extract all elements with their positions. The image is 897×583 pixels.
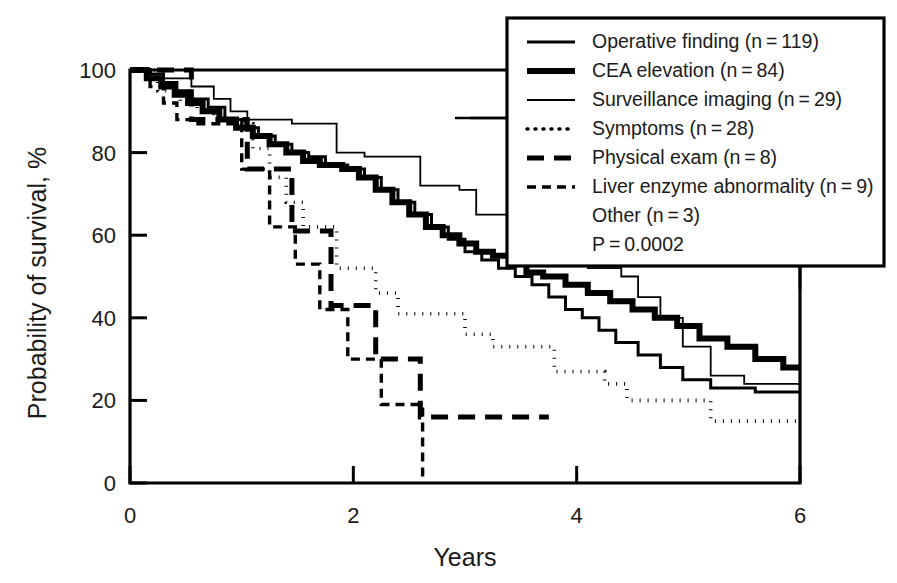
x-tick-label-4: 4 [571, 503, 583, 528]
x-tick-label-2: 2 [347, 503, 359, 528]
y-tick-label-100: 100 [79, 58, 116, 83]
legend-label-0: Operative finding (n = 119) [592, 30, 819, 52]
legend: Operative finding (n = 119)CEA elevation… [455, 18, 884, 290]
legend-label-3: Symptoms (n = 28) [592, 117, 754, 139]
y-tick-label-20: 20 [92, 388, 116, 413]
survival-chart-svg: 020406080100 0246 Probability of surviva… [0, 0, 897, 583]
survival-chart-figure: 020406080100 0246 Probability of surviva… [0, 0, 897, 583]
y-tick-label-80: 80 [92, 141, 116, 166]
legend-other-label: Other (n = 3) [592, 204, 700, 226]
y-axis-title: Probability of survival, % [23, 147, 51, 419]
x-tick-label-6: 6 [794, 503, 806, 528]
legend-label-2: Surveillance imaging (n = 29) [592, 88, 842, 110]
legend-label-4: Physical exam (n = 8) [592, 146, 777, 168]
y-tick-label-40: 40 [92, 306, 116, 331]
y-tick-label-0: 0 [104, 471, 116, 496]
legend-label-1: CEA elevation (n = 84) [592, 59, 785, 81]
legend-pvalue-label: P = 0.0002 [592, 233, 684, 255]
legend-box [507, 18, 884, 266]
x-tick-label-0: 0 [124, 503, 136, 528]
x-axis-title: Years [433, 543, 496, 571]
y-tick-label-60: 60 [92, 223, 116, 248]
legend-label-5: Liver enzyme abnormality (n = 9) [592, 175, 873, 197]
